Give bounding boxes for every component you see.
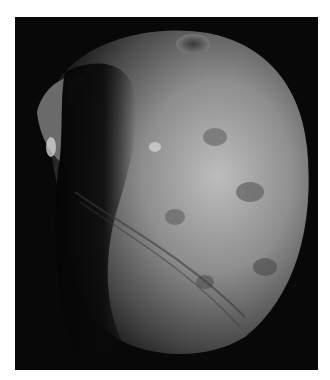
phobos-illustration — [15, 17, 318, 370]
moon-photo — [15, 17, 318, 370]
